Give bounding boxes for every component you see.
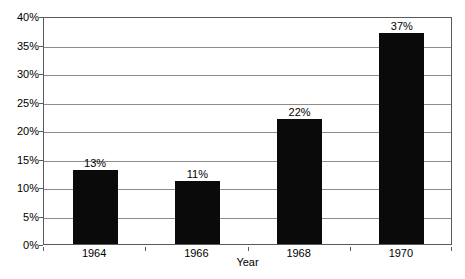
bar-value-label: 13%	[84, 158, 106, 169]
y-tick-label: 35%	[0, 40, 39, 51]
y-tick-label: 0%	[0, 240, 39, 251]
y-tick-mark	[39, 217, 43, 218]
y-tick-label: 40%	[0, 12, 39, 23]
x-tick-mark	[248, 247, 249, 251]
plot-area: 13%11%22%37%	[43, 17, 452, 245]
bar-value-label: 22%	[289, 107, 311, 118]
bar	[379, 33, 424, 244]
y-tick-label: 5%	[0, 211, 39, 222]
bar	[277, 119, 322, 244]
y-tick-label: 20%	[0, 126, 39, 137]
bar	[175, 181, 220, 244]
bar-value-label: 37%	[391, 21, 413, 32]
bar-chart: 13%11%22%37% 0%5%10%15%20%25%30%35%40% 1…	[0, 0, 465, 279]
x-tick-mark	[350, 247, 351, 251]
y-tick-mark	[39, 131, 43, 132]
x-tick-mark	[145, 247, 146, 251]
bar-value-label: 11%	[187, 169, 208, 180]
y-tick-label: 30%	[0, 69, 39, 80]
y-tick-mark	[39, 74, 43, 75]
y-tick-label: 15%	[0, 154, 39, 165]
bar	[73, 170, 118, 244]
y-tick-mark	[39, 160, 43, 161]
x-tick-mark	[451, 247, 452, 251]
y-tick-mark	[39, 188, 43, 189]
y-tick-mark	[39, 103, 43, 104]
y-tick-label: 10%	[0, 183, 39, 194]
x-tick-mark	[43, 247, 44, 251]
y-tick-mark	[39, 46, 43, 47]
y-tick-label: 25%	[0, 97, 39, 108]
y-axis: 0%5%10%15%20%25%30%35%40%	[0, 17, 39, 245]
x-axis-title: Year	[43, 256, 452, 269]
y-tick-mark	[39, 17, 43, 18]
y-tick-mark	[39, 245, 43, 246]
